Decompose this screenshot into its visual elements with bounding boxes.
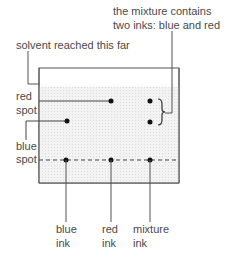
red-spot-label-line1: red <box>16 90 32 103</box>
mixture-note-line2: two inks: blue and red <box>113 19 220 32</box>
mixture-ink-label-line1: mixture <box>133 223 169 236</box>
red-spot-dot <box>109 99 114 104</box>
red-ink-label-line2: ink <box>102 237 116 250</box>
mixture-red-dot <box>148 99 153 104</box>
blue-spot-label-line1: blue <box>16 140 37 153</box>
solvent-note: solvent reached this far <box>16 39 130 52</box>
blue-spot-dot <box>65 119 70 124</box>
mixture-blue-dot <box>148 120 153 125</box>
blue-spot-label-line2: spot <box>16 153 37 166</box>
blue-ink-label-line1: blue <box>56 223 77 236</box>
mixture-note-line1: the mixture contains <box>113 5 211 18</box>
red-spot-label-line2: spot <box>16 104 37 117</box>
red-ink-label-line1: red <box>102 223 118 236</box>
blue-ink-label-line2: ink <box>56 237 70 250</box>
solvent-leader <box>28 51 39 84</box>
mixture-ink-label-line2: ink <box>133 237 147 250</box>
